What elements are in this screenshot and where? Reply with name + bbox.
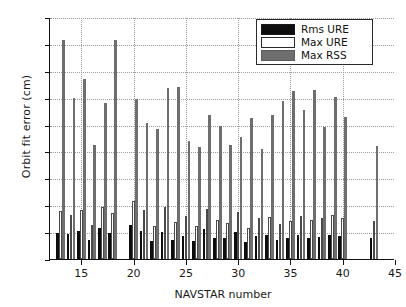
legend-item: Max RSS — [261, 49, 368, 62]
bar-max-rss-34 — [282, 101, 285, 259]
bar-max-rss-15 — [83, 79, 86, 259]
bar-max-rss-38 — [323, 127, 326, 259]
y-axis-tick — [45, 72, 50, 73]
bar-max-rss-25 — [188, 141, 191, 259]
x-axis-title: NAVSTAR number — [48, 288, 398, 301]
bar-max-rss-13 — [62, 40, 65, 259]
bar-max-rss-24 — [177, 87, 180, 259]
x-axis-tick-label: 15 — [61, 267, 101, 280]
bar-max-rss-26 — [198, 147, 201, 259]
y-axis-tick — [45, 99, 50, 100]
bar-max-rss-36 — [303, 110, 306, 260]
bar-max-rss-40 — [344, 117, 347, 260]
x-axis-tick — [238, 260, 239, 265]
bar-max-rss-23 — [167, 88, 170, 259]
y-axis-tick — [45, 152, 50, 153]
y-axis-tick — [45, 45, 50, 46]
y-axis-title: Orbit fit error (cm) — [20, 37, 33, 217]
bar-max-rss-37 — [313, 90, 316, 259]
x-axis-tick — [81, 260, 82, 265]
bar-max-rss-43 — [376, 146, 379, 259]
x-axis-tick-label: 40 — [323, 267, 363, 280]
legend-swatch-icon — [261, 37, 295, 48]
bar-max-rss-31 — [250, 118, 253, 259]
x-axis-tick-label: 25 — [166, 267, 206, 280]
bar-max-rss-27 — [208, 115, 211, 259]
legend-item: Rms URE — [261, 23, 368, 36]
legend-item: Max URE — [261, 36, 368, 49]
bar-max-rss-28 — [219, 126, 222, 259]
x-axis-tick — [186, 260, 187, 265]
bar-max-rss-21 — [146, 123, 149, 259]
bar-max-rss-22 — [156, 129, 159, 259]
bar-max-rss-32 — [261, 149, 264, 259]
y-axis-tick — [45, 179, 50, 180]
chart-legend: Rms UREMax UREMax RSS — [256, 19, 373, 65]
y-axis-tick — [45, 260, 50, 261]
x-axis-tick — [290, 260, 291, 265]
x-axis-tick-label: 20 — [114, 267, 154, 280]
bar-max-rss-18 — [114, 40, 117, 259]
x-axis-tick — [343, 260, 344, 265]
x-axis-tick-label: 30 — [218, 267, 258, 280]
y-axis-tick — [45, 233, 50, 234]
bar-max-rss-33 — [271, 115, 274, 259]
bar-max-rss-29 — [229, 145, 232, 259]
legend-label: Rms URE — [301, 24, 349, 35]
bar-max-rss-16 — [93, 145, 96, 259]
bar-max-rss-35 — [292, 91, 295, 259]
x-axis-tick — [395, 260, 396, 265]
bar-max-rss-20 — [135, 99, 138, 259]
legend-swatch-icon — [261, 50, 295, 61]
y-axis-tick — [45, 206, 50, 207]
bar-max-rss-39 — [334, 97, 337, 259]
legend-label: Max URE — [301, 37, 348, 48]
legend-label: Max RSS — [301, 50, 347, 61]
y-axis-tick — [45, 18, 50, 19]
bar-max-rss-17 — [104, 103, 107, 259]
legend-swatch-icon — [261, 24, 295, 35]
x-axis-tick-label: 35 — [270, 267, 310, 280]
bar-max-rss-14 — [73, 98, 76, 259]
x-axis-tick — [134, 260, 135, 265]
y-axis-tick — [45, 126, 50, 127]
bar-max-rss-30 — [240, 137, 243, 259]
x-axis-tick-label: 45 — [375, 267, 406, 280]
